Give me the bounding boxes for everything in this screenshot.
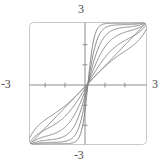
diagonal-line-y-equals-x xyxy=(29,22,147,145)
axis-label-right: 3 xyxy=(152,78,158,90)
axis-label-top: 3 xyxy=(78,3,84,15)
math-plot-figure: 3 -3 -3 3 xyxy=(0,0,166,167)
axis-label-left: -3 xyxy=(1,78,10,90)
axis-label-bottom: -3 xyxy=(74,149,83,161)
plot-canvas xyxy=(0,0,166,167)
